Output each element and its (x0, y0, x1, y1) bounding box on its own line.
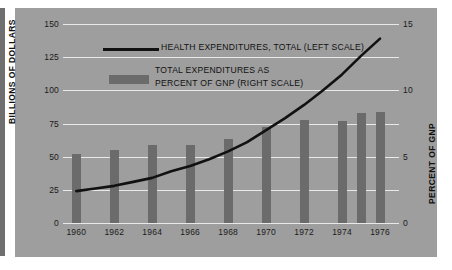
right-axis-tick-label: 10 (403, 85, 413, 95)
right-axis-tick-label: 5 (403, 152, 408, 162)
legend-line-swatch (103, 48, 159, 51)
left-axis-tick-label: 100 (44, 85, 59, 95)
x-axis-tick-label: 1968 (218, 227, 238, 237)
gridline (63, 223, 399, 224)
chart-panel: BILLIONS OF DOLLARS PERCENT OF GNP 15012… (15, 8, 437, 257)
right-axis-tick-label: 15 (403, 19, 413, 29)
legend-line-label: HEALTH EXPENDITURES, TOTAL (LEFT SCALE) (161, 41, 364, 54)
left-axis-tick-label: 75 (49, 119, 59, 129)
x-axis-tick-label: 1974 (332, 227, 352, 237)
x-axis-tick-label: 1976 (370, 227, 390, 237)
plot-area: 1501251007550250 151050 1960196219641966… (63, 24, 399, 223)
page-gutter-strip (0, 8, 5, 256)
right-axis-tick-label: 0 (403, 218, 408, 228)
x-axis-tick-label: 1960 (66, 227, 86, 237)
chart-screenshot: BILLIONS OF DOLLARS PERCENT OF GNP 15012… (0, 0, 452, 270)
legend-bar-label-line1: TOTAL EXPENDITURES AS (155, 64, 303, 77)
left-axis-tick-label: 25 (49, 185, 59, 195)
legend-bar-swatch (109, 75, 149, 84)
legend-bar-label: TOTAL EXPENDITURES AS PERCENT OF GNP (RI… (155, 64, 303, 89)
left-axis-tick-label: 50 (49, 152, 59, 162)
left-axis-tick-label: 150 (44, 19, 59, 29)
left-axis-title: BILLIONS OF DOLLARS (7, 19, 17, 124)
line-series (63, 24, 399, 223)
x-axis-tick-label: 1966 (180, 227, 200, 237)
left-axis-tick-label: 0 (54, 218, 59, 228)
x-axis-tick-label: 1972 (294, 227, 314, 237)
right-axis-title: PERCENT OF GNP (427, 123, 437, 204)
x-axis-tick-label: 1962 (104, 227, 124, 237)
x-axis-tick-label: 1964 (142, 227, 162, 237)
legend-bar-label-line2: PERCENT OF GNP (RIGHT SCALE) (155, 77, 303, 90)
x-axis-tick-label: 1970 (256, 227, 276, 237)
left-axis-tick-label: 125 (44, 52, 59, 62)
